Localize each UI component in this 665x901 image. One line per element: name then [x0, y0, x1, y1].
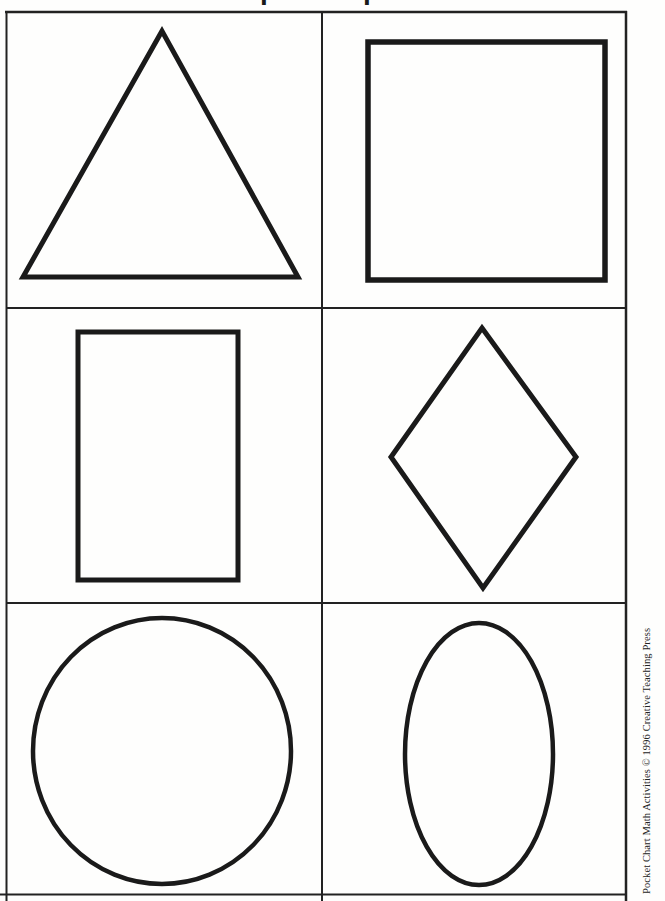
copyright-text: Pocket Chart Math Activities © 1996 Crea…	[641, 628, 652, 894]
shape-cards-grid	[0, 0, 665, 901]
card-grid-lines	[0, 11, 627, 901]
triangle-shape	[23, 31, 298, 277]
oval-shape	[405, 623, 553, 885]
square-shape	[368, 42, 605, 280]
worksheet-page: Simple Shapes Pocket Chart Math Activiti…	[0, 0, 665, 901]
diamond-shape	[391, 328, 576, 588]
rectangle-shape	[78, 332, 238, 580]
circle-shape	[33, 618, 291, 884]
